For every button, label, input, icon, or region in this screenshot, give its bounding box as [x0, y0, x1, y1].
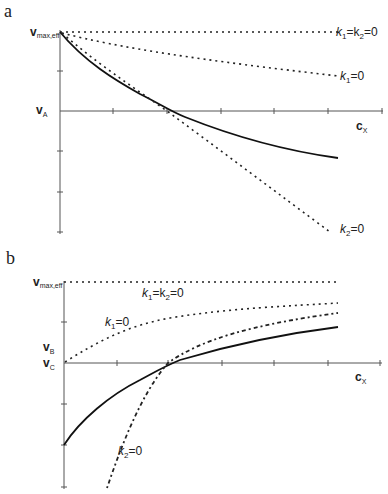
panel-a-curve-k1 [62, 33, 338, 76]
figure: a vmax,eff vA cX [0, 0, 388, 494]
panel-b-curve-full [64, 327, 338, 445]
panel-a-curve-k2 [62, 33, 330, 232]
panel-b-label-k1: k1=0 [105, 315, 129, 331]
panel-b-label-k2: k2=0 [118, 444, 142, 460]
panel-a-cx-label: cX [356, 119, 368, 134]
panel-a-letter: a [4, 1, 12, 21]
panel-b-curve-k2 [107, 313, 338, 488]
panel-a-label-k1: k1=0 [340, 69, 364, 85]
panel-a-label-k1k2: k1=k2=0 [336, 25, 378, 41]
panel-a-vmax-label: vmax,eff [30, 25, 60, 39]
panel-b-cx-label: cX [355, 370, 367, 385]
panel-b: b vmax,eff vB vC cX [6, 248, 382, 489]
panel-b-vmax-label: vmax,eff [33, 275, 63, 289]
panel-a: a vmax,eff vA cX [4, 1, 383, 238]
panel-a-vA-label: vA [36, 103, 48, 118]
panel-b-letter: b [6, 248, 15, 268]
panel-b-label-k1k2: k1=k2=0 [142, 286, 184, 302]
panel-a-label-k2: k2=0 [340, 222, 364, 238]
panel-b-vB-label: vB [43, 340, 55, 355]
panel-a-curve-full [60, 32, 338, 158]
panel-b-vC-label: vC [43, 356, 55, 371]
